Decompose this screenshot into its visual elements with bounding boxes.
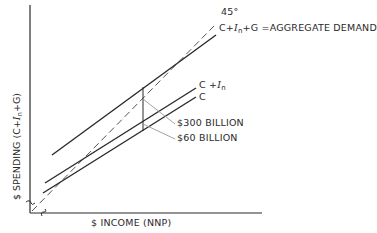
gap-300-billion-label: $300 BILLION	[177, 117, 244, 128]
aggregate-demand-label: C+In+G =AGGREGATE DEMAND	[219, 22, 377, 35]
y-axis-label: $ SPENDING (C+In+G)	[11, 92, 24, 202]
forty-five-degree-label: 45°	[221, 6, 238, 17]
gap-60-billion-label: $60 BILLION	[177, 132, 238, 143]
x-axis-label: $ INCOME (NNP)	[91, 217, 171, 228]
leader-line-60	[143, 124, 175, 139]
c-plus-in-line	[45, 88, 196, 183]
consumption-label: C	[199, 91, 206, 102]
